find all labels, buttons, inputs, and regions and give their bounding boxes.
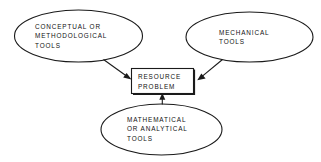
diagram-canvas: CONCEPTUAL OR METHODOLOGICAL TOOLS MECHA… (0, 0, 321, 162)
edge-conceptual-arrowhead (123, 73, 131, 80)
edge-mechanical-to-resource (197, 60, 222, 81)
node-mathematical-tools[interactable] (101, 104, 222, 155)
edge-conceptual-line (104, 60, 128, 77)
node-conceptual-tools[interactable] (15, 10, 143, 62)
edge-conceptual-to-resource (104, 60, 132, 80)
node-mechanical-tools[interactable] (186, 12, 313, 62)
edge-mechanical-line (202, 60, 223, 77)
node-resource-problem-label: RESOURCE PROBLEM (138, 72, 181, 91)
